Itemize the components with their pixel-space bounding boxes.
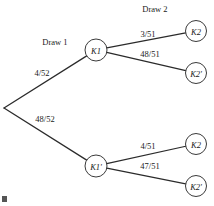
edge-label-k1-k2: 3/51: [140, 29, 155, 39]
draw-1-header: Draw 1: [42, 37, 67, 47]
corner-artifact-mark: [2, 196, 7, 202]
branch-root-k1: [4, 56, 87, 108]
node-label-k1prime: K1': [89, 162, 102, 172]
node-label-k2p_top: K2': [189, 69, 202, 79]
draw-2-header: Draw 2: [142, 4, 167, 14]
edge-label-k1prime-k2: 4/51: [140, 141, 155, 151]
edge-label-k1prime-k2prime: 47/51: [140, 161, 159, 171]
node-label-k2_top: K2: [190, 27, 202, 37]
edge-label-root-k1prime: 48/52: [35, 114, 54, 124]
node-label-k2p_bot: K2': [189, 182, 202, 192]
probability-tree-diagram: K1K1'K2K2'K2K2' 4/5248/523/5148/514/5147…: [0, 0, 214, 206]
node-label-k2_bot: K2: [190, 140, 202, 150]
node-label-k1: K1: [90, 46, 101, 56]
edge-label-root-k1: 4/52: [34, 68, 49, 78]
edge-label-k1-k2prime: 48/51: [140, 49, 159, 59]
